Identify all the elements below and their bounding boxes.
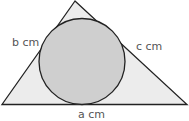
inscribed-circle: [39, 19, 125, 105]
triangle-diagram: b cm c cm a cm: [0, 0, 189, 121]
label-side-c: c cm: [136, 40, 162, 53]
label-side-b: b cm: [12, 36, 39, 49]
label-side-a: a cm: [78, 108, 105, 121]
